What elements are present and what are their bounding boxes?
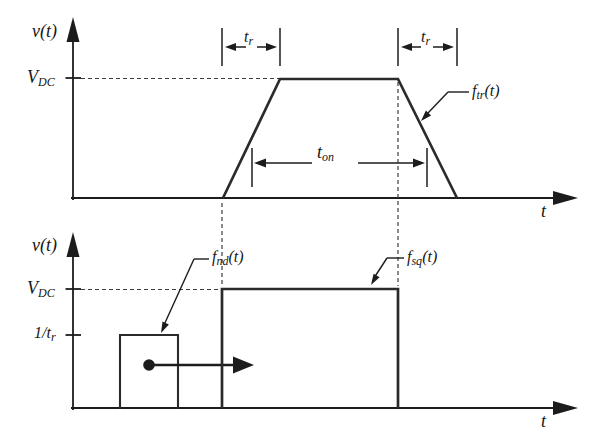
- bottom-y-axis-arrow-icon: [67, 232, 80, 257]
- top-vdc-label: VDC: [27, 68, 55, 86]
- ton-sub: on: [322, 150, 334, 164]
- bottom-vdc-sub: DC: [38, 286, 55, 300]
- tr-left-label: tr: [244, 29, 253, 45]
- tr-right-sub: r: [425, 34, 430, 48]
- fnd-suffix: (t): [228, 248, 243, 265]
- fsq-suffix: (t): [422, 248, 437, 265]
- fsq-leader: [371, 258, 404, 285]
- tr-left-arrow-right-icon: [266, 43, 277, 51]
- fsq-leader-diagonal: [374, 258, 387, 278]
- ton-measure: [252, 148, 427, 187]
- ton-label: ton: [317, 143, 334, 161]
- ftr-leader: [421, 92, 469, 121]
- fnd-leader-diagonal: [164, 259, 194, 325]
- top-x-axis-label: t: [541, 202, 546, 220]
- tr-right-arrow-left-icon: [401, 43, 412, 51]
- bottom-x-axis-label-text: t: [541, 411, 546, 431]
- top-y-axis-label-text: v(t): [32, 21, 57, 41]
- top-x-axis-label-text: t: [541, 201, 546, 221]
- bottom-y-axis-label-text: v(t): [32, 235, 57, 255]
- bottom-x-axis-arrow-icon: [553, 401, 578, 415]
- fnd-sub: nd: [216, 254, 228, 268]
- square-pulse-waveform: [222, 289, 398, 408]
- bottom-vdc-label: VDC: [27, 279, 55, 297]
- fsq-sub: sq: [411, 254, 422, 268]
- waveform-figure: v(t) VDC tr tr ton ftr(t) t v(t) VDC 1/t…: [0, 0, 604, 446]
- top-x-axis-arrow-icon: [553, 191, 578, 205]
- nd-pulse-rectangle: [120, 335, 178, 409]
- bottom-vdc-main: V: [27, 278, 38, 298]
- inv-tr-label: 1/tr: [34, 325, 56, 341]
- tr-left-sub: r: [248, 34, 253, 48]
- ftr-label: ftr(t): [472, 83, 500, 99]
- bottom-x-axis-label: t: [541, 412, 546, 430]
- ton-arrow-right-icon: [413, 159, 425, 168]
- inv-tr-sub: r: [51, 330, 56, 344]
- ton-arrow-left-icon: [254, 159, 266, 168]
- inv-tr-main: 1/t: [34, 324, 51, 341]
- ftr-leader-diagonal: [428, 92, 448, 113]
- tr-left-arrow-left-icon: [225, 43, 236, 51]
- top-y-axis-arrow-icon: [67, 17, 80, 42]
- top-y-axis-label: v(t): [32, 22, 57, 40]
- fsq-leader-arrow-icon: [371, 274, 380, 285]
- top-vdc-sub: DC: [38, 75, 55, 89]
- bottom-y-axis-label: v(t): [32, 236, 57, 254]
- fnd-label: fnd(t): [212, 249, 244, 265]
- fnd-leader-arrow-icon: [161, 322, 169, 333]
- figure-linework: [0, 0, 604, 446]
- trapezoid-waveform: [223, 79, 457, 198]
- top-vdc-main: V: [27, 67, 38, 87]
- tr-right-label: tr: [421, 29, 430, 45]
- convolution-dot-icon: [143, 359, 155, 371]
- bottom-plot: [66, 232, 579, 415]
- convolution-arrow-head-icon: [233, 357, 254, 374]
- ftr-suffix: (t): [484, 82, 499, 99]
- fnd-leader: [161, 259, 209, 333]
- fsq-label: fsq(t): [407, 249, 437, 265]
- tr-right-arrow-right-icon: [443, 43, 454, 51]
